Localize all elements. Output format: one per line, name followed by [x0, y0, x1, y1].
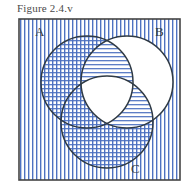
set-label-c: C [131, 161, 140, 176]
figure-container: Figure 2.4.v [0, 0, 191, 192]
venn-diagram: A B C [0, 0, 191, 192]
set-label-a: A [35, 24, 45, 39]
set-label-b: B [155, 24, 164, 39]
